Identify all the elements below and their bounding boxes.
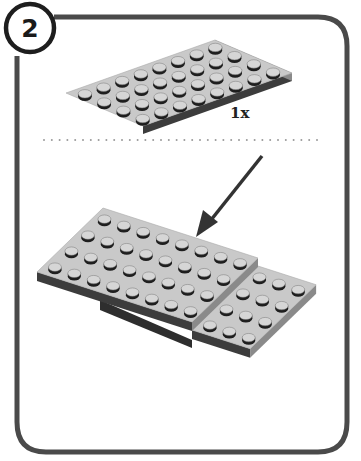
dotted-divider — [43, 139, 318, 141]
divider-dot — [98, 139, 100, 141]
divider-dot — [113, 139, 115, 141]
stud — [210, 73, 224, 84]
stud — [178, 262, 191, 273]
stud — [142, 272, 155, 283]
stud — [68, 269, 81, 280]
divider-dot — [254, 139, 256, 141]
divider-dot — [59, 139, 61, 141]
divider-dot — [168, 139, 170, 141]
divider-dot — [152, 139, 154, 141]
stud — [153, 78, 167, 89]
stud — [116, 91, 130, 102]
stud — [239, 311, 252, 322]
instruction-step: 2 1x — [0, 0, 361, 461]
stud — [190, 50, 204, 61]
divider-dot — [238, 139, 240, 141]
stud — [97, 83, 111, 94]
stud — [191, 65, 205, 76]
stud — [229, 81, 243, 92]
stud — [253, 273, 266, 284]
stud — [134, 70, 148, 81]
stud — [217, 275, 230, 286]
stud — [154, 93, 168, 104]
divider-dot — [191, 139, 193, 141]
stud — [153, 63, 167, 74]
stud — [256, 295, 269, 306]
stud — [84, 253, 97, 264]
stud — [198, 268, 211, 279]
divider-dot — [230, 139, 232, 141]
divider-dot — [277, 139, 279, 141]
divider-dot — [137, 139, 139, 141]
stud — [214, 252, 227, 263]
stud — [223, 327, 236, 338]
stud — [173, 86, 187, 97]
stud — [203, 321, 216, 332]
stud — [120, 243, 133, 254]
stud — [117, 221, 130, 232]
stud — [78, 90, 92, 101]
divider-dot — [222, 139, 224, 141]
placement-arrow-icon — [196, 156, 262, 237]
stud — [220, 305, 233, 316]
stud — [136, 114, 150, 125]
stud — [48, 263, 61, 274]
stud — [145, 294, 158, 305]
divider-dot — [90, 139, 92, 141]
stud — [247, 60, 261, 71]
stud — [201, 291, 214, 302]
stud — [87, 275, 100, 286]
divider-dot — [285, 139, 287, 141]
stud — [195, 246, 208, 257]
stud — [155, 108, 169, 119]
divider-dot — [105, 139, 107, 141]
stud — [126, 288, 139, 299]
stud — [117, 106, 131, 117]
divider-dot — [199, 139, 201, 141]
divider-dot — [66, 139, 68, 141]
stud — [98, 215, 111, 226]
stud — [171, 56, 185, 67]
stud — [101, 237, 114, 248]
divider-dot — [246, 139, 248, 141]
stud — [156, 234, 169, 245]
stud — [115, 76, 129, 87]
stud — [275, 301, 288, 312]
divider-dot — [129, 139, 131, 141]
divider-dot — [207, 139, 209, 141]
stud — [184, 307, 197, 318]
divider-dot — [144, 139, 146, 141]
divider-dot — [183, 139, 185, 141]
stud — [209, 58, 223, 69]
divider-dot — [293, 139, 295, 141]
divider-dot — [51, 139, 53, 141]
stud — [140, 250, 153, 261]
stud — [81, 231, 94, 242]
stud — [242, 333, 255, 344]
assembly-model — [37, 208, 316, 358]
stud — [181, 284, 194, 295]
quantity-label: 1x — [230, 104, 250, 122]
stud — [228, 66, 242, 77]
stud — [209, 43, 223, 54]
divider-dot — [43, 139, 45, 141]
stud — [165, 300, 178, 311]
divider-dot — [121, 139, 123, 141]
stud — [135, 99, 149, 110]
stud — [175, 240, 188, 251]
divider-dot — [176, 139, 178, 141]
stud — [135, 85, 149, 96]
divider-dot — [215, 139, 217, 141]
step-number-badge: 2 — [6, 4, 54, 52]
stud — [259, 317, 272, 328]
step-number: 2 — [21, 14, 38, 43]
stud — [162, 278, 175, 289]
stud — [266, 68, 280, 79]
stud — [172, 71, 186, 82]
stud — [292, 285, 305, 296]
stud — [104, 259, 117, 270]
stud — [65, 247, 78, 258]
stud — [107, 282, 120, 293]
stud — [248, 75, 262, 86]
divider-dot — [74, 139, 76, 141]
